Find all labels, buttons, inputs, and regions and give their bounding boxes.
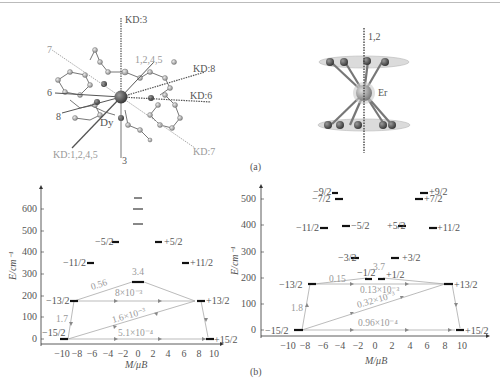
- svg-text:−2: −2: [353, 340, 364, 351]
- svg-text:+3/2: +3/2: [402, 252, 420, 263]
- svg-text:0: 0: [373, 340, 378, 351]
- svg-text:200: 200: [22, 290, 37, 301]
- axis-label-kd8: KD:8: [193, 63, 215, 74]
- svg-text:−15/2: −15/2: [265, 325, 288, 336]
- er-label: Er: [378, 87, 388, 98]
- svg-text:4: 4: [166, 348, 171, 359]
- svg-text:400: 400: [241, 219, 256, 230]
- svg-text:+1/2: +1/2: [386, 269, 404, 280]
- svg-text:100: 100: [241, 298, 256, 309]
- svg-text:−3/2: −3/2: [338, 252, 356, 263]
- svg-text:−4: −4: [335, 340, 346, 351]
- svg-text:0.15: 0.15: [329, 274, 346, 284]
- axis-label-kd3: KD:3: [125, 14, 147, 25]
- svg-text:500: 500: [22, 225, 37, 236]
- er-axis-label: 1,2: [368, 31, 381, 42]
- x-axis-label-right: M/μB: [364, 355, 387, 366]
- svg-text:1.7: 1.7: [56, 314, 68, 324]
- svg-text:4: 4: [408, 340, 413, 351]
- svg-text:10: 10: [457, 340, 467, 351]
- svg-text:300: 300: [241, 246, 256, 257]
- chart-left: 0100200 300400500600 −10−8−6 −4−20 246 8…: [7, 187, 237, 370]
- x-axis-label-left: M/μB: [124, 359, 147, 370]
- svg-text:−13/2: −13/2: [46, 295, 69, 306]
- svg-text:0.96×10⁻⁴: 0.96×10⁻⁴: [358, 318, 398, 328]
- svg-text:400: 400: [22, 246, 37, 257]
- svg-text:−6: −6: [318, 340, 329, 351]
- svg-text:+5/2: +5/2: [164, 236, 182, 247]
- svg-text:−8: −8: [300, 340, 311, 351]
- svg-text:−13/2: −13/2: [279, 279, 302, 290]
- svg-text:1.6×10⁻³: 1.6×10⁻³: [111, 306, 147, 325]
- y-axis-label-left: E/cm⁻¹: [7, 251, 18, 281]
- er-molecule: [318, 28, 410, 153]
- svg-text:+13/2: +13/2: [454, 279, 477, 290]
- axis-label-kd7: KD:7: [193, 146, 215, 157]
- svg-text:100: 100: [22, 311, 37, 322]
- svg-text:−11/2: −11/2: [296, 222, 319, 233]
- dy-atom: [115, 91, 128, 104]
- svg-text:8: 8: [443, 340, 448, 351]
- svg-text:−15/2: −15/2: [42, 327, 65, 338]
- dy-label: Dy: [100, 116, 114, 128]
- svg-text:−5/2: −5/2: [95, 236, 113, 247]
- axis-label-1245: 1,2,4,5: [135, 54, 163, 65]
- panel-b-label: (b): [250, 366, 262, 378]
- svg-text:+11/2: +11/2: [437, 222, 460, 233]
- svg-text:+11/2: +11/2: [190, 257, 213, 268]
- svg-text:0.56: 0.56: [90, 277, 109, 292]
- svg-text:200: 200: [241, 272, 256, 283]
- svg-text:−9/2: −9/2: [313, 186, 331, 197]
- svg-text:3.7: 3.7: [373, 262, 385, 272]
- axis-label-7: 7: [47, 44, 52, 55]
- svg-text:−4: −4: [103, 348, 114, 359]
- axis-label-kd1245: KD:1,2,4,5: [53, 149, 98, 160]
- svg-text:+15/2: +15/2: [465, 325, 488, 336]
- svg-text:−6: −6: [87, 348, 98, 359]
- svg-text:1.8: 1.8: [291, 303, 303, 313]
- svg-text:+9/2: +9/2: [429, 186, 447, 197]
- axis-label-6: 6: [47, 87, 52, 98]
- svg-text:500: 500: [241, 193, 256, 204]
- svg-text:+5/2: +5/2: [387, 220, 405, 231]
- axis-label-8: 8: [56, 111, 61, 122]
- y-axis-label-right: E/cm⁻¹: [229, 246, 240, 276]
- svg-text:+13/2: +13/2: [206, 295, 229, 306]
- svg-text:10: 10: [209, 348, 219, 359]
- svg-text:300: 300: [22, 268, 37, 279]
- svg-text:0: 0: [251, 324, 256, 335]
- svg-text:−5/2: −5/2: [351, 220, 369, 231]
- figure-canvas: KD:3 1,2,4,5 KD:8 KD:6 KD:7 3 KD:1,2,4,5…: [0, 0, 500, 388]
- svg-text:6: 6: [182, 348, 187, 359]
- svg-text:8×10⁻³: 8×10⁻³: [115, 288, 143, 298]
- axis-label-kd6: KD:6: [190, 90, 212, 101]
- svg-text:0: 0: [32, 333, 37, 344]
- svg-text:−2: −2: [118, 348, 129, 359]
- svg-text:−10: −10: [280, 340, 296, 351]
- chart-right: 0100200 300400500 −10−8−6 −4−20 246 810 …: [229, 186, 488, 378]
- svg-text:8: 8: [197, 348, 202, 359]
- svg-text:3.4: 3.4: [132, 267, 144, 277]
- svg-text:5.1×10⁻⁴: 5.1×10⁻⁴: [118, 328, 154, 338]
- panel-a-label: (a): [250, 161, 261, 173]
- svg-text:−11/2: −11/2: [63, 257, 86, 268]
- svg-text:−8: −8: [72, 348, 83, 359]
- svg-text:600: 600: [22, 203, 37, 214]
- dy-molecule: [52, 18, 211, 158]
- svg-text:−10: −10: [54, 348, 70, 359]
- svg-text:6: 6: [425, 340, 430, 351]
- axis-label-3: 3: [122, 155, 127, 166]
- svg-text:0: 0: [136, 348, 141, 359]
- svg-text:+15/2: +15/2: [214, 334, 237, 345]
- svg-text:2: 2: [390, 340, 395, 351]
- svg-text:2: 2: [151, 348, 156, 359]
